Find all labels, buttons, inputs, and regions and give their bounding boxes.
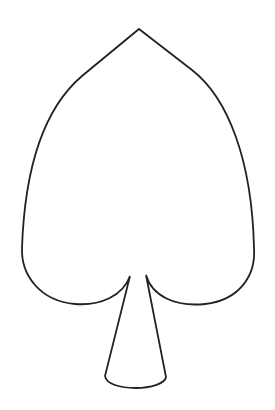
spade-outline-icon	[0, 0, 275, 410]
spade-body-outline	[22, 29, 254, 388]
spade-figure	[0, 0, 275, 410]
